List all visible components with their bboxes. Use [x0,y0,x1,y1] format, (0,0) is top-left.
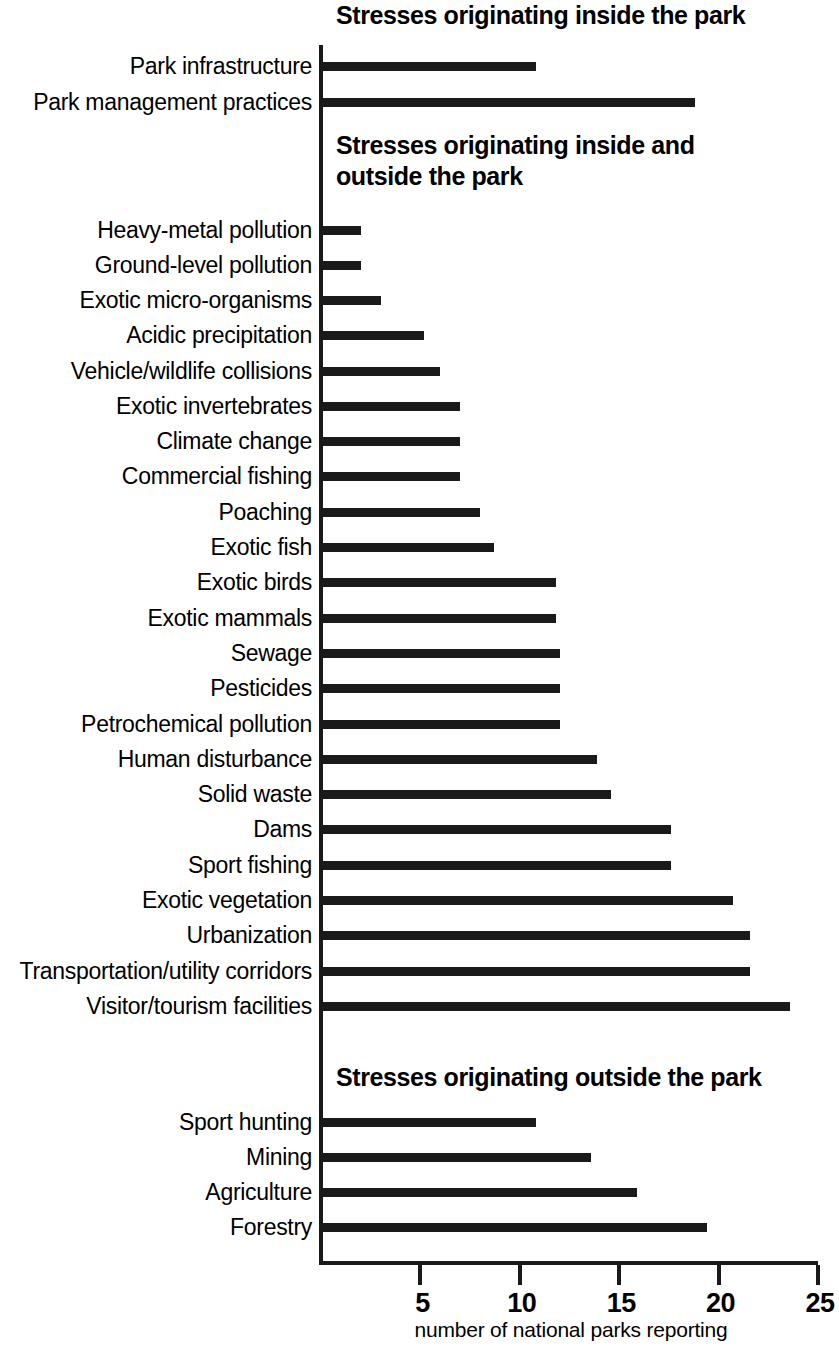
category-label: Exotic birds [197,569,312,595]
bar-row: Agriculture [0,1188,834,1210]
x-axis-tick-label: 25 [780,1288,839,1318]
category-label: Petrochemical pollution [81,711,312,737]
bar-row: Exotic micro-organisms [0,296,834,318]
category-label: Sport hunting [179,1109,312,1135]
bar [321,62,536,71]
bar-row: Climate change [0,437,834,459]
bar [321,402,460,411]
category-label: Exotic mammals [148,605,313,631]
category-label: Acidic precipitation [126,322,312,348]
bar-row: Human disturbance [0,755,834,777]
category-label: Transportation/utility corridors [20,958,313,984]
bar [321,578,556,587]
bar-row: Sport hunting [0,1118,834,1140]
bar [321,896,733,905]
bar [321,296,381,305]
bar [321,226,361,235]
x-axis-tick-label: 10 [482,1288,562,1318]
x-axis-tick [518,1265,522,1285]
bar-row: Forestry [0,1223,834,1245]
bar [321,367,440,376]
bar-row: Solid waste [0,790,834,812]
bar-row: Urbanization [0,931,834,953]
bar-row: Exotic fish [0,543,834,565]
bar-row: Commercial fishing [0,472,834,494]
bar [321,755,597,764]
bar [321,967,750,976]
category-label: Solid waste [198,781,312,807]
category-label: Vehicle/wildlife collisions [71,358,312,384]
bar-row: Ground-level pollution [0,261,834,283]
bar [321,331,424,340]
bar-row: Pesticides [0,684,834,706]
bar-row: Sport fishing [0,861,834,883]
category-label: Exotic fish [210,534,312,560]
section-heading-inside-and-outside-park: Stresses originating inside and outside … [336,130,756,192]
bar [321,98,695,107]
bar-row: Poaching [0,508,834,530]
bar [321,649,560,658]
bar-row: Visitor/tourism facilities [0,1002,834,1024]
category-label: Exotic invertebrates [116,393,312,419]
bar [321,1223,707,1232]
x-axis-tick-label: 15 [581,1288,661,1318]
bar [321,1153,591,1162]
x-axis-tick [418,1265,422,1285]
bar [321,508,480,517]
bar-row: Park management practices [0,98,834,120]
x-axis-line [319,1261,818,1265]
category-label: Pesticides [210,675,312,701]
x-axis-tick-label: 20 [681,1288,761,1318]
category-label: Dams [253,816,312,842]
x-axis-tick [717,1265,721,1285]
bar [321,931,750,940]
bar [321,1118,536,1127]
x-axis-tick [816,1265,820,1285]
bar [321,543,494,552]
bar-row: Exotic birds [0,578,834,600]
bar [321,437,460,446]
category-label: Commercial fishing [122,463,312,489]
category-label: Sewage [231,640,312,666]
bar-row: Park infrastructure [0,62,834,84]
category-label: Urbanization [186,922,312,948]
bar-row: Dams [0,825,834,847]
x-axis-tick [617,1265,621,1285]
bar [321,614,556,623]
x-axis-tick-label: 5 [382,1288,462,1318]
bar [321,861,671,870]
category-label: Climate change [156,428,312,454]
section-heading-outside-park: Stresses originating outside the park [336,1062,762,1093]
bar [321,684,560,693]
category-label: Poaching [218,499,312,525]
bar-row: Heavy-metal pollution [0,226,834,248]
category-label: Heavy-metal pollution [97,217,312,243]
category-label: Park infrastructure [130,53,312,79]
category-label: Sport fishing [188,852,312,878]
bar [321,720,560,729]
bar [321,825,671,834]
category-label: Agriculture [205,1179,312,1205]
category-label: Human disturbance [118,746,312,772]
bar [321,1002,790,1011]
bar [321,790,611,799]
bar-row: Exotic vegetation [0,896,834,918]
x-axis-label: number of national parks reporting [321,1318,821,1342]
bar-row: Sewage [0,649,834,671]
bar [321,261,361,270]
bar-row: Petrochemical pollution [0,720,834,742]
category-label: Exotic micro-organisms [80,287,312,313]
category-label: Park management practices [33,89,312,115]
category-label: Exotic vegetation [142,887,312,913]
category-label: Visitor/tourism facilities [86,993,312,1019]
bar-row: Vehicle/wildlife collisions [0,367,834,389]
section-heading-inside-park: Stresses originating inside the park [336,0,745,31]
bar-row: Mining [0,1153,834,1175]
bar-row: Transportation/utility corridors [0,967,834,989]
bar-row: Exotic invertebrates [0,402,834,424]
category-label: Forestry [230,1214,312,1240]
bar-row: Exotic mammals [0,614,834,636]
category-label: Ground-level pollution [95,252,312,278]
bar [321,472,460,481]
